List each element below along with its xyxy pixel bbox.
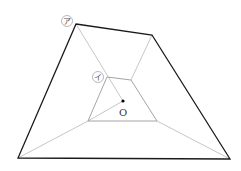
- label-inner-text: イ: [94, 73, 102, 82]
- outer-quadrilateral: [18, 24, 230, 159]
- center-point: [121, 99, 124, 102]
- connector-lines: [18, 24, 230, 159]
- label-center: O: [119, 107, 127, 118]
- connector-tr: [131, 35, 152, 80]
- label-outer: ア: [62, 16, 73, 27]
- connector-tl-to-center: [76, 24, 123, 101]
- label-inner: イ: [93, 72, 104, 83]
- connector-center-bl: [88, 101, 123, 121]
- label-outer-text: ア: [63, 17, 71, 26]
- connector-br: [157, 121, 230, 159]
- connector-bl: [18, 121, 88, 158]
- diagram-canvas: ア イ O: [0, 0, 241, 171]
